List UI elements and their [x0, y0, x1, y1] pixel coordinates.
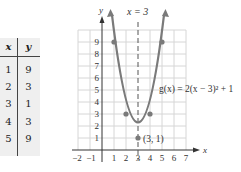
- parabola-chart: 9 8 7 6 5 4 3 2 1 −2 −1 1 2 3 4 5 6 7 x …: [0, 0, 241, 172]
- x-axis-arrow-icon: [193, 148, 200, 153]
- svg-text:5: 5: [95, 85, 100, 95]
- svg-text:2: 2: [124, 153, 129, 163]
- curve-arrow-right-icon: [162, 9, 169, 17]
- x-axis-label: x: [202, 145, 207, 155]
- svg-text:−1: −1: [86, 153, 96, 163]
- y-axis-label: y: [98, 5, 103, 15]
- svg-text:4: 4: [148, 153, 153, 163]
- svg-text:6: 6: [95, 73, 100, 83]
- svg-text:−2: −2: [72, 153, 82, 163]
- svg-text:1: 1: [112, 153, 117, 163]
- svg-text:4: 4: [95, 97, 100, 107]
- axis-of-symmetry-label: x = 3: [126, 6, 148, 17]
- svg-text:6: 6: [172, 153, 177, 163]
- svg-text:7: 7: [95, 61, 100, 71]
- svg-text:5: 5: [160, 153, 165, 163]
- y-axis-arrow-icon: [100, 16, 105, 23]
- svg-text:2: 2: [95, 121, 100, 131]
- svg-text:7: 7: [184, 153, 189, 163]
- svg-text:3: 3: [95, 109, 100, 119]
- curve-arrow-left-icon: [107, 9, 114, 17]
- svg-text:1: 1: [95, 133, 100, 143]
- svg-text:3: 3: [136, 153, 141, 163]
- function-label: g(x) = 2(x − 3)² + 1: [159, 84, 234, 95]
- svg-text:9: 9: [95, 37, 100, 47]
- svg-text:8: 8: [95, 49, 100, 59]
- x-tick-labels: −2 −1 1 2 3 4 5 6 7: [72, 153, 189, 163]
- vertex-label: (3, 1): [143, 134, 164, 145]
- y-tick-labels: 9 8 7 6 5 4 3 2 1: [95, 37, 100, 143]
